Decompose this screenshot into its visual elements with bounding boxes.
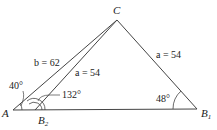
- leader-132: [38, 95, 60, 101]
- side-label-a-outer: a = 54: [156, 49, 181, 60]
- vertex-label-A: A: [1, 107, 9, 119]
- vertex-label-C: C: [113, 4, 121, 16]
- angle-label-B1: 48°: [156, 93, 170, 104]
- side-AB1: [13, 109, 197, 110]
- angle-label-A: 40°: [9, 80, 23, 91]
- vertex-label-B1: B1: [201, 107, 211, 121]
- side-label-a-inner: a = 54: [75, 67, 100, 78]
- leader-40: [21, 91, 24, 106]
- side-label-b: b = 62: [34, 57, 60, 68]
- triangle-diagram: C A B2 B1 b = 62 a = 54 a = 54 40° 132° …: [0, 0, 217, 130]
- angle-arc-B1: [173, 91, 181, 109]
- angle-label-B2: 132°: [62, 89, 81, 100]
- vertex-label-B2: B2: [38, 114, 49, 128]
